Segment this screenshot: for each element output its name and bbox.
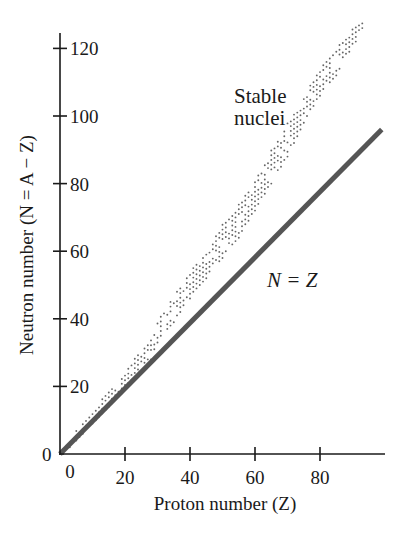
stable-nucleus-dot (316, 89, 318, 91)
stable-nucleus-dot (92, 413, 94, 415)
stable-nucleus-dot (212, 243, 214, 245)
stable-nucleus-dot (241, 206, 243, 208)
stable-nucleus-dot (293, 128, 295, 130)
stable-nucleus-dot (264, 188, 266, 190)
stable-nucleus-dot (251, 194, 253, 196)
stable-nucleus-dot (329, 67, 331, 69)
stable-nucleus-dot (267, 186, 269, 188)
stable-nucleus-dot (326, 80, 328, 82)
stable-nucleus-dot (339, 44, 341, 46)
stable-nucleus-dot (192, 281, 194, 283)
stable-nucleus-dot (231, 229, 233, 231)
stable-nucleus-dot (290, 135, 292, 137)
stable-nucleus-dot (293, 142, 295, 144)
stable-nucleus-dot (176, 305, 178, 307)
stable-nucleus-dot (173, 321, 175, 323)
stable-nucleus-dot (316, 93, 318, 95)
stable-nucleus-dot (342, 42, 344, 44)
stable-nucleus-dot (222, 257, 224, 259)
stable-nucleus-dot (309, 104, 311, 106)
stable-nucleus-dot (254, 186, 256, 188)
stable-nucleus-dot (231, 215, 233, 217)
stable-nucleus-dot (261, 173, 263, 175)
stable-nucleus-dot (332, 54, 334, 56)
stable-nucleus-dot (329, 77, 331, 79)
stable-nucleus-dot (170, 310, 172, 312)
stable-nucleus-dot (235, 212, 237, 214)
stable-nucleus-dot (202, 281, 204, 283)
stable-nucleus-dot (264, 193, 266, 195)
stable-nucleus-dot (257, 203, 259, 205)
stable-nucleus-dot (274, 157, 276, 159)
stable-nucleus-dot (153, 334, 155, 336)
stable-nucleus-dot (176, 314, 178, 316)
stable-nucleus-dot (202, 271, 204, 273)
y-axis-title: Neutron number (N = A − Z) (16, 135, 38, 355)
stable-nucleus-dot (222, 224, 224, 226)
stable-nucleus-dot (209, 261, 211, 263)
stable-nucleus-dot (309, 85, 311, 87)
x-tick-label: 20 (116, 467, 135, 488)
stable-nucleus-dot (192, 277, 194, 279)
x-axis-title: Proton number (Z) (154, 493, 296, 515)
stable-nucleus-dot (342, 52, 344, 54)
stable-nucleus-dot (215, 259, 217, 261)
stable-nucleus-dot (134, 358, 136, 360)
stable-nucleus-dot (179, 306, 181, 308)
stable-nucleus-dot (85, 420, 87, 422)
stable-nucleus-dot (335, 51, 337, 53)
stable-nucleus-dot (244, 223, 246, 225)
stable-nucleus-dot (238, 237, 240, 239)
stable-nucleus-dot (264, 174, 266, 176)
stable-nucleus-dot (127, 368, 129, 370)
y-tick-label: 80 (70, 174, 89, 195)
stable-nucleus-dot (218, 260, 220, 262)
stable-nucleus-dot (144, 348, 146, 350)
stable-nucleus-dot (147, 344, 149, 346)
stable-label-line1: Stable (234, 84, 287, 108)
stable-nucleus-dot (277, 145, 279, 147)
stable-nucleus-dot (303, 122, 305, 124)
stable-nucleus-dot (205, 277, 207, 279)
stable-nucleus-dot (306, 115, 308, 117)
stable-nucleus-dot (355, 31, 357, 33)
stable-nucleus-dot (127, 377, 129, 379)
stable-nucleus-dot (306, 101, 308, 103)
stable-nucleus-dot (170, 320, 172, 322)
stable-nucleus-dot (358, 24, 360, 26)
stable-nucleus-dot (189, 283, 191, 285)
stable-nucleus-dot (241, 211, 243, 213)
x-tick-label: 60 (246, 467, 265, 488)
stable-nucleus-dot (218, 256, 220, 258)
stable-nucleus-dot (215, 245, 217, 247)
stable-nucleus-dot (251, 213, 253, 215)
stable-nucleus-dot (326, 75, 328, 77)
stable-nucleus-dot (254, 200, 256, 202)
stable-nucleus-dot (140, 356, 142, 358)
stable-nucleus-dot (313, 105, 315, 107)
stable-nucleus-dot (225, 250, 227, 252)
stable-nucleus-dot (170, 306, 172, 308)
stable-nucleus-dot (280, 161, 282, 163)
stable-nucleus-dot (316, 79, 318, 81)
stable-nucleus-dot (248, 191, 250, 193)
stable-nucleus-dot (254, 210, 256, 212)
y-tick-label: 40 (70, 309, 89, 330)
stable-nucleus-dot (319, 71, 321, 73)
y-origin-label: 0 (42, 444, 52, 465)
stable-nucleus-dot (163, 312, 165, 314)
stable-nucleus-dot (241, 202, 243, 204)
stable-nucleus-dot (150, 344, 152, 346)
stable-nucleus-dot (215, 250, 217, 252)
stable-nucleus-dot (287, 141, 289, 143)
stable-nucleus-dot (176, 291, 178, 293)
stable-nucleus-dot (75, 430, 77, 432)
stable-nucleus-dot (238, 213, 240, 215)
stable-nucleus-dot (189, 274, 191, 276)
stable-nucleus-dot (228, 237, 230, 239)
stable-nuclei-band (62, 22, 363, 455)
stable-nucleus-dot (293, 137, 295, 139)
stable-nucleus-dot (339, 49, 341, 51)
stable-nucleus-dot (270, 154, 272, 156)
x-tick-label: 0 (65, 461, 75, 482)
